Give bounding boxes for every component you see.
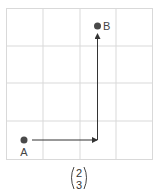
vector-bottom: 3	[76, 179, 82, 191]
right-paren	[84, 167, 87, 189]
label-a: A	[20, 146, 28, 158]
point-a	[21, 137, 28, 144]
column-vector: 2 3	[66, 164, 92, 191]
vector-top: 2	[76, 167, 82, 179]
left-paren	[72, 167, 75, 189]
grid-diagram: A B	[0, 0, 156, 191]
label-b: B	[103, 20, 110, 32]
point-b	[94, 23, 101, 30]
grid	[7, 9, 153, 160]
